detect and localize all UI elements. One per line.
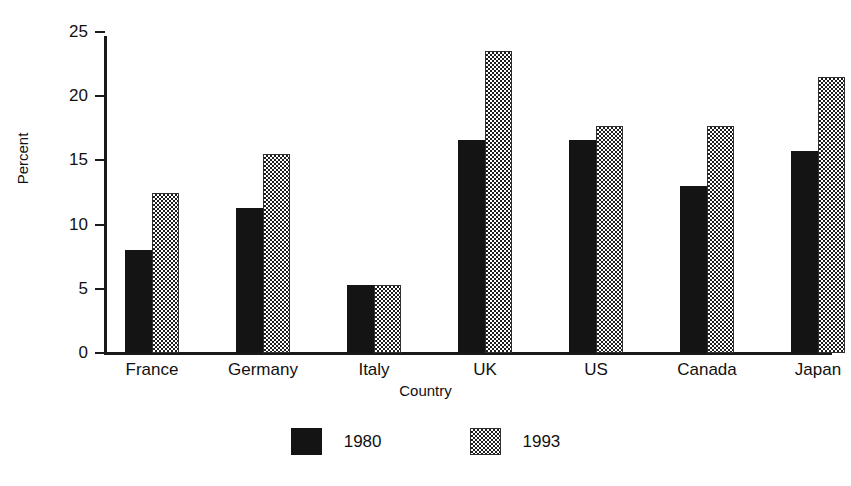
y-axis-tick [95,224,105,226]
bar-canada-1993 [707,126,734,353]
bar-us-1980 [569,140,596,353]
y-axis-tick [95,31,105,33]
legend-label-1980: 1980 [344,432,382,452]
bar-germany-1993 [263,154,290,353]
x-axis-label-canada: Canada [657,360,757,379]
y-axis-tick-label: 25 [28,23,88,40]
bar-france-1993 [152,193,179,354]
y-axis-tick-label: 0 [28,344,88,361]
y-axis-tick-label: 20 [28,87,88,104]
legend-item-1980: 1980 [291,428,382,455]
bar-germany-1980 [236,208,263,353]
bar-us-1993 [596,126,623,353]
y-axis-tick [95,352,105,354]
x-axis-label-japan: Japan [768,360,851,379]
bar-italy-1980 [347,285,374,353]
x-axis-title: Country [0,382,851,399]
y-axis-tick-label: 15 [28,151,88,168]
y-axis-tick [95,159,105,161]
legend-item-1993: 1993 [470,428,561,455]
bar-france-1980 [125,250,152,353]
bar-uk-1980 [458,140,485,353]
bar-japan-1993 [818,77,845,353]
x-axis-label-uk: UK [435,360,535,379]
y-axis-tick [95,95,105,97]
legend-swatch-solid-icon [291,428,322,455]
y-axis-tick-label: 5 [28,280,88,297]
y-axis-tick-label: 10 [28,216,88,233]
bar-canada-1980 [680,186,707,353]
x-axis-label-us: US [546,360,646,379]
y-axis-tick [95,288,105,290]
legend-label-1993: 1993 [523,432,561,452]
bar-uk-1993 [485,51,512,353]
bar-japan-1980 [791,151,818,353]
plot-area [106,32,832,353]
bar-chart: Percent 0510152025 FranceGermanyItalyUKU… [0,0,851,486]
x-axis-label-italy: Italy [324,360,424,379]
legend-swatch-checkered-icon [470,428,501,455]
x-axis-label-germany: Germany [213,360,313,379]
chart-legend: 1980 1993 [0,428,851,455]
x-axis-label-france: France [102,360,202,379]
bar-italy-1993 [374,285,401,353]
